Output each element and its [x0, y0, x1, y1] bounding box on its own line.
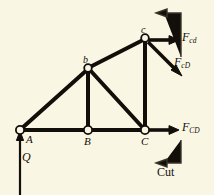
cut-label: Cut	[157, 166, 174, 178]
force-label-FCD: FCD	[182, 121, 200, 134]
member-b-C	[89, 69, 144, 129]
node-label-C: C	[141, 136, 148, 147]
force-label-FCD-subscript: CD	[189, 126, 199, 135]
force-label-Q: Q	[22, 151, 31, 163]
force-label-FcD: FcD	[174, 56, 190, 69]
truss-members	[20, 39, 145, 130]
node-marker-A	[16, 126, 24, 134]
node-marker-b	[84, 64, 92, 72]
member-b-c	[88, 39, 145, 68]
force-FCD-arrowhead	[169, 126, 179, 135]
node-label-B: B	[84, 136, 91, 147]
force-label-FcD-subscript: cD	[181, 61, 190, 70]
node-label-b: b	[83, 55, 88, 65]
node-marker-C	[141, 126, 149, 134]
force-label-Q-base: Q	[22, 150, 31, 164]
cut-line-top-arrowhead	[156, 9, 167, 17]
force-label-Fcd: Fcd	[182, 31, 196, 44]
node-marker-c	[141, 34, 149, 42]
node-marker-B	[84, 126, 92, 134]
force-FcD-shaft	[148, 42, 175, 69]
force-label-Fcd-subscript: cd	[189, 36, 196, 45]
member-A-b	[21, 69, 88, 129]
node-label-c: c	[141, 25, 145, 35]
cut-indicators	[156, 9, 181, 167]
cut-line-top-elbow	[164, 13, 181, 57]
node-label-A: A	[26, 134, 33, 145]
